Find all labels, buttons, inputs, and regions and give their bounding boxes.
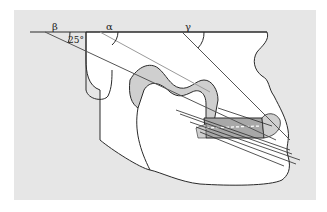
label-alpha: α [106, 21, 113, 32]
label-gamma: γ [185, 21, 191, 32]
label-angle-25: 25° [68, 35, 84, 45]
mandible-angle-diagram: β 25° α γ [0, 0, 327, 212]
label-beta: β [52, 21, 58, 32]
